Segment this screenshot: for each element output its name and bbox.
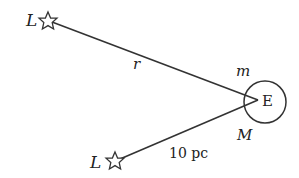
bottom-star-label: L	[90, 154, 101, 171]
apparent-magnitude-label: m	[236, 64, 250, 79]
line-top-star-to-earth	[52, 22, 258, 100]
diagram-canvas	[0, 0, 299, 178]
star-icon	[106, 152, 124, 169]
top-star-label: L	[26, 12, 37, 29]
distance-10pc-label: 10 pc	[169, 146, 208, 160]
earth-label: E	[262, 94, 273, 109]
absolute-magnitude-label: M	[237, 128, 252, 143]
distance-r-label: r	[133, 57, 140, 72]
star-icon	[39, 12, 57, 29]
